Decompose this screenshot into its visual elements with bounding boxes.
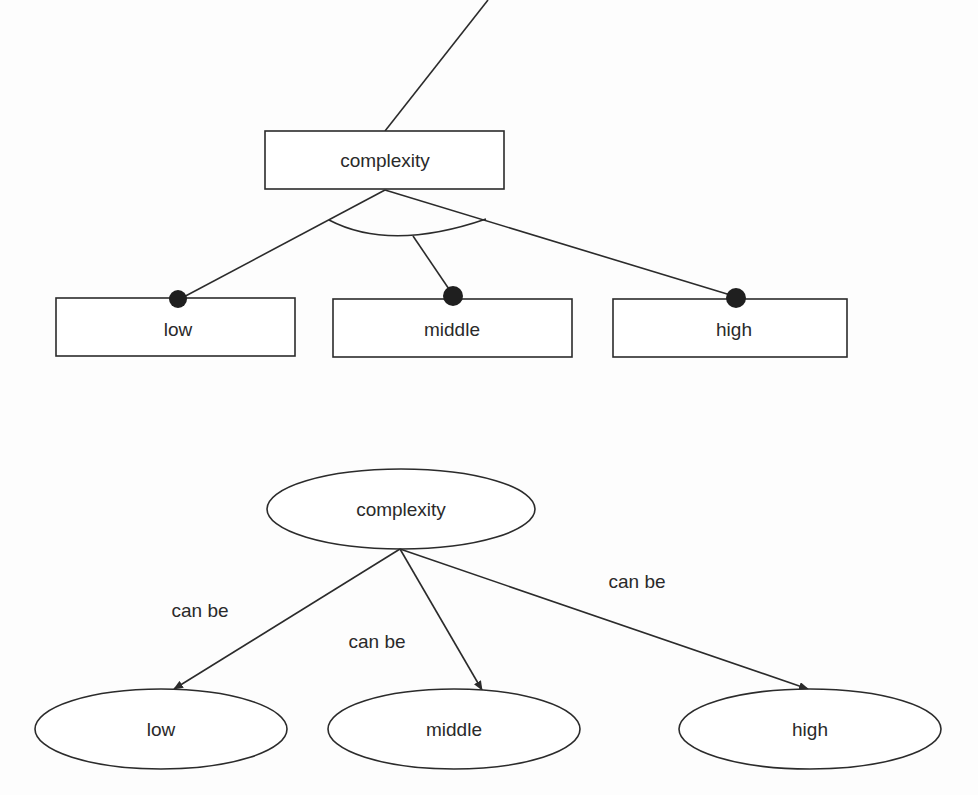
bottom-figure: complexity can be can be can be low midd… <box>35 469 941 769</box>
edge-label-middle: can be <box>348 631 405 652</box>
top-connector-high <box>385 190 737 297</box>
edge-label-high: can be <box>608 571 665 592</box>
bottom-parent-node: complexity <box>267 469 535 549</box>
edge-label-low: can be <box>171 600 228 621</box>
top-child-label-low: low <box>164 319 193 340</box>
connection-dot-icon <box>443 286 463 306</box>
top-child-node-low: low <box>56 290 295 356</box>
bottom-child-node-low: low <box>35 689 287 769</box>
connection-dot-icon <box>169 290 187 308</box>
document-page: complexity low middle <box>0 0 978 795</box>
bottom-arrow-middle <box>400 549 482 690</box>
top-connector-low <box>178 190 385 300</box>
incoming-connector-line <box>385 0 488 131</box>
bottom-parent-label: complexity <box>356 499 446 520</box>
bottom-child-label-middle: middle <box>426 719 482 740</box>
constraint-arc <box>329 219 486 236</box>
top-connector-middle <box>413 236 453 295</box>
diagram-canvas: complexity low middle <box>0 0 978 795</box>
top-child-node-high: high <box>613 288 847 357</box>
bottom-child-label-high: high <box>792 719 828 740</box>
bottom-child-label-low: low <box>147 719 176 740</box>
bottom-child-node-middle: middle <box>328 689 580 769</box>
top-child-label-high: high <box>716 319 752 340</box>
top-parent-node: complexity <box>265 131 504 189</box>
top-child-node-middle: middle <box>333 286 572 357</box>
top-parent-label: complexity <box>340 150 430 171</box>
connection-dot-icon <box>726 288 746 308</box>
bottom-arrow-high <box>400 549 808 689</box>
top-figure: complexity low middle <box>56 0 847 357</box>
top-child-label-middle: middle <box>424 319 480 340</box>
bottom-child-node-high: high <box>679 689 941 769</box>
